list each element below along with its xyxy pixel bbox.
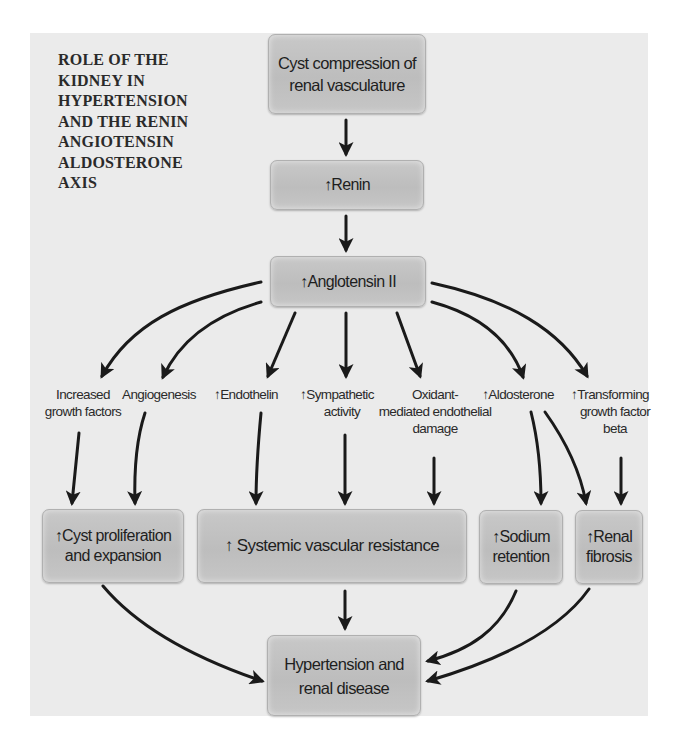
label-text: Sympathetic — [306, 387, 374, 402]
box-text: retention — [492, 547, 550, 567]
up-arrow-icon: ↑ — [225, 536, 233, 555]
box-text: Cyst compression of — [278, 52, 416, 74]
label-angiogenesis: Angiogenesis — [114, 386, 204, 403]
box-text: Anglotensin II — [307, 273, 396, 290]
box-cyst-proliferation: ↑Cyst proliferation and expansion — [42, 509, 184, 583]
box-renin: ↑Renin — [270, 160, 424, 210]
label-text: beta — [564, 420, 656, 437]
label-text: mediated endothelial — [370, 403, 500, 420]
arrow-to-angiogenesis — [163, 302, 261, 377]
box-text: Cyst proliferation — [62, 527, 171, 544]
arrow-sodium-to-hypertension — [428, 591, 516, 661]
arrow-to-endothelin — [268, 313, 295, 376]
box-text: Sodium — [499, 528, 550, 545]
box-text: Renin — [331, 176, 370, 193]
label-text: Endothelin — [220, 387, 278, 402]
arrow-angiogenesis-to-proliferation — [135, 413, 145, 503]
arrow-to-oxidant — [397, 313, 420, 376]
arrow-fibrosis-to-hypertension — [428, 589, 589, 681]
label-sympathetic-activity: ↑Sympathetic activity — [292, 386, 382, 420]
box-renal-fibrosis: ↑Renal fibrosis — [575, 510, 643, 584]
label-text: Angiogenesis — [114, 386, 204, 403]
label-endothelin: ↑Endothelin — [206, 386, 286, 403]
arrow-to-aldosterone — [432, 302, 523, 377]
label-text: growth factors — [28, 403, 138, 420]
box-text: Renal — [593, 528, 632, 545]
label-text: damage — [370, 420, 500, 437]
label-text: activity — [292, 403, 382, 420]
label-aldosterone: ↑Aldosterone — [476, 386, 560, 403]
label-text: Transforming — [577, 387, 649, 402]
box-text: Systemic vascular resistance — [233, 536, 440, 555]
arrow-growth-to-proliferation — [72, 433, 79, 503]
label-transforming-growth-factor-beta: ↑Transforming growth factor beta — [564, 386, 656, 437]
box-angiotensin-ii: ↑Anglotensin II — [270, 256, 426, 307]
box-text: and expansion — [55, 546, 172, 566]
arrow-proliferation-to-hypertension — [103, 586, 262, 681]
box-cyst-compression: Cyst compression of renal vasculature — [268, 34, 426, 114]
arrow-to-growth-factors — [102, 282, 261, 376]
box-sodium-retention: ↑Sodium retention — [479, 510, 563, 584]
box-text: Hypertension and — [284, 652, 404, 676]
box-text: fibrosis — [586, 547, 632, 567]
label-text: Aldosterone — [488, 387, 553, 402]
box-text: renal vasculature — [278, 74, 416, 96]
up-arrow-icon: ↑ — [55, 527, 62, 544]
arrow-aldosterone-to-sodium — [531, 412, 541, 503]
box-systemic-vascular-resistance: ↑ Systemic vascular resistance — [197, 509, 467, 583]
box-hypertension-renal-disease: Hypertension and renal disease — [267, 635, 421, 716]
label-text: growth factor — [564, 403, 656, 420]
arrow-endothelin-to-resistance — [256, 413, 261, 503]
arrow-to-tgf-beta — [432, 283, 587, 376]
box-text: renal disease — [284, 676, 404, 700]
